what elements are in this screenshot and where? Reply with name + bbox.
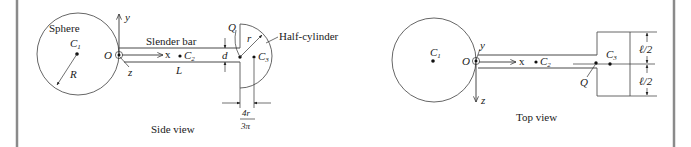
origin-dot-top xyxy=(475,60,478,63)
y-axis-label: y xyxy=(124,11,130,23)
q-dot-top xyxy=(594,61,597,64)
side-view-caption: Side view xyxy=(151,123,195,135)
z-axis-label: z xyxy=(127,66,133,78)
c2-dot xyxy=(178,54,181,57)
q-label: Q xyxy=(228,21,236,33)
half-width-top-label: ℓ/2 xyxy=(639,43,653,55)
small-radius-label: r xyxy=(247,32,252,44)
c2-label: C2 xyxy=(184,49,195,63)
origin-label: O xyxy=(104,49,112,61)
origin-label-top: O xyxy=(462,55,470,67)
offset-numerator: 4r xyxy=(242,108,251,118)
x-axis-label: x xyxy=(165,48,171,60)
mechanics-figure: Sphere C1 R Slender bar y x z O C2 L d H… xyxy=(0,0,691,147)
radius-label: R xyxy=(69,68,77,80)
c1-label-top: C1 xyxy=(430,46,441,60)
offset-denominator: 3π xyxy=(240,121,251,131)
half-width-bottom-label: ℓ/2 xyxy=(639,75,653,87)
side-view: Sphere C1 R Slender bar y x z O C2 L d H… xyxy=(37,11,339,135)
c3-label: C3 xyxy=(258,50,269,64)
top-view: C1 y x z O C2 Q C3 ℓ/2 ℓ/2 Top view xyxy=(392,18,657,123)
z-axis-label-top: z xyxy=(480,94,486,106)
thickness-label: d xyxy=(222,49,228,61)
q-leader xyxy=(235,30,239,55)
top-view-caption: Top view xyxy=(516,111,557,123)
sphere-label: Sphere xyxy=(49,22,80,34)
half-cylinder-label: Half-cylinder xyxy=(279,30,339,42)
c3-dot xyxy=(252,55,255,58)
c1-label: C1 xyxy=(70,37,81,51)
c2-label-top: C2 xyxy=(540,55,551,69)
c3-dot-top xyxy=(608,62,611,65)
q-label-top: Q xyxy=(580,76,588,88)
origin-dot xyxy=(118,54,121,57)
length-label: L xyxy=(175,64,182,76)
c1-dot-top xyxy=(431,59,435,63)
y-axis-label-top: y xyxy=(479,39,485,51)
slender-bar-label: Slender bar xyxy=(146,35,197,47)
q-leader-top xyxy=(587,65,595,77)
c3-label-top: C3 xyxy=(606,48,617,62)
x-axis-label-top: x xyxy=(519,55,525,67)
c2-dot-top xyxy=(534,60,537,63)
